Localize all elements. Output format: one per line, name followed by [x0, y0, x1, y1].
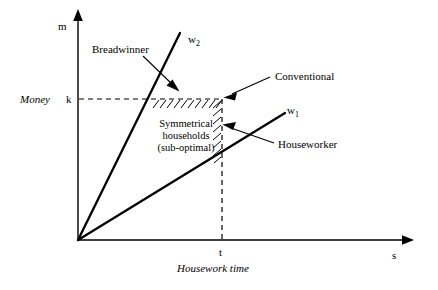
hatch-top-edge — [153, 100, 222, 108]
breadwinner-pointer — [143, 56, 180, 92]
x-tick-label-t: t — [219, 246, 222, 258]
w1-label-base: w — [287, 104, 295, 116]
houseworker-label: Houseworker — [278, 138, 338, 150]
x-axis-symbol-label: s — [392, 249, 396, 261]
w1-label: w1 — [287, 104, 299, 119]
y-axis-name-label: Money — [19, 93, 50, 105]
w2-label: w2 — [188, 33, 200, 48]
conventional-pointer-line — [232, 77, 270, 94]
x-axis-arrowhead — [402, 235, 414, 245]
economics-diagram: m s Money k t Housework time w2 w1 Bread… — [0, 0, 438, 290]
houseworker-pointer-line — [231, 128, 274, 143]
w1-label-subscript: 1 — [295, 110, 299, 119]
x-axis-name-label: Housework time — [176, 262, 249, 274]
symmetrical-households-caption: Symmetrical households (sub-optimal) — [157, 118, 215, 154]
breadwinner-pointer-line — [143, 56, 174, 86]
y-tick-label-k: k — [66, 93, 72, 105]
conventional-label: Conventional — [275, 70, 334, 82]
y-axis-arrowhead — [73, 9, 83, 21]
figure-root: m s Money k t Housework time w2 w1 Bread… — [0, 0, 438, 290]
region-caption-line-3: (sub-optimal) — [157, 142, 215, 154]
region-caption-line-1: Symmetrical — [159, 118, 213, 129]
w2-label-base: w — [188, 33, 196, 45]
region-caption-line-2: households — [162, 130, 209, 141]
w2-label-subscript: 2 — [196, 39, 200, 48]
breadwinner-label: Breadwinner — [92, 43, 149, 55]
y-axis-symbol-label: m — [58, 20, 67, 32]
conventional-pointer — [224, 77, 271, 101]
conventional-arrowhead — [224, 93, 238, 101]
